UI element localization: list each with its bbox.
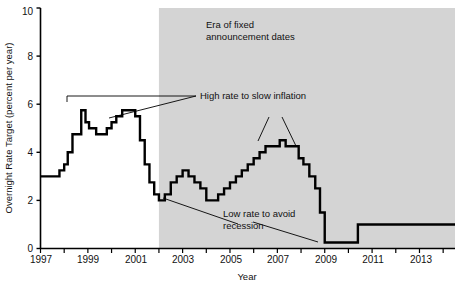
y-tick-label-10: 10	[22, 6, 34, 17]
x-tick-label-2013: 2013	[410, 254, 433, 265]
chart-figure: 0 2 4 6 8 10 1997 1999 2001 2003 2005 20…	[0, 0, 462, 285]
y-tick-label-0: 0	[27, 243, 33, 254]
x-tick-label-2005: 2005	[220, 254, 243, 265]
y-tick-label-2: 2	[27, 195, 33, 206]
annotation-low-rate-line1: Low rate to avoid	[223, 208, 295, 219]
x-tick-label-1999: 1999	[77, 254, 100, 265]
y-tick-label-4: 4	[27, 147, 33, 158]
x-tick-label-2007: 2007	[267, 254, 290, 265]
x-tick-label-2001: 2001	[125, 254, 148, 265]
annotation-high-rate: High rate to slow inflation	[200, 90, 306, 101]
annotation-low-rate-line2: recession	[223, 220, 264, 231]
x-tick-label-2003: 2003	[172, 254, 195, 265]
y-tick-label-8: 8	[27, 51, 33, 62]
y-axis-title: Overnight Rate Target (percent per year)	[3, 43, 14, 214]
x-tick-label-2011: 2011	[362, 254, 384, 265]
y-tick-label-6: 6	[27, 99, 33, 110]
overnight-rate-target-line-chart: 0 2 4 6 8 10 1997 1999 2001 2003 2005 20…	[0, 0, 462, 285]
x-axis-title: Year	[237, 271, 256, 282]
x-tick-label-1997: 1997	[30, 254, 53, 265]
x-tick-label-2009: 2009	[315, 254, 338, 265]
annotation-era-line1: Era of fixed	[206, 19, 254, 30]
annotation-era-line2: announcement dates	[206, 31, 295, 42]
